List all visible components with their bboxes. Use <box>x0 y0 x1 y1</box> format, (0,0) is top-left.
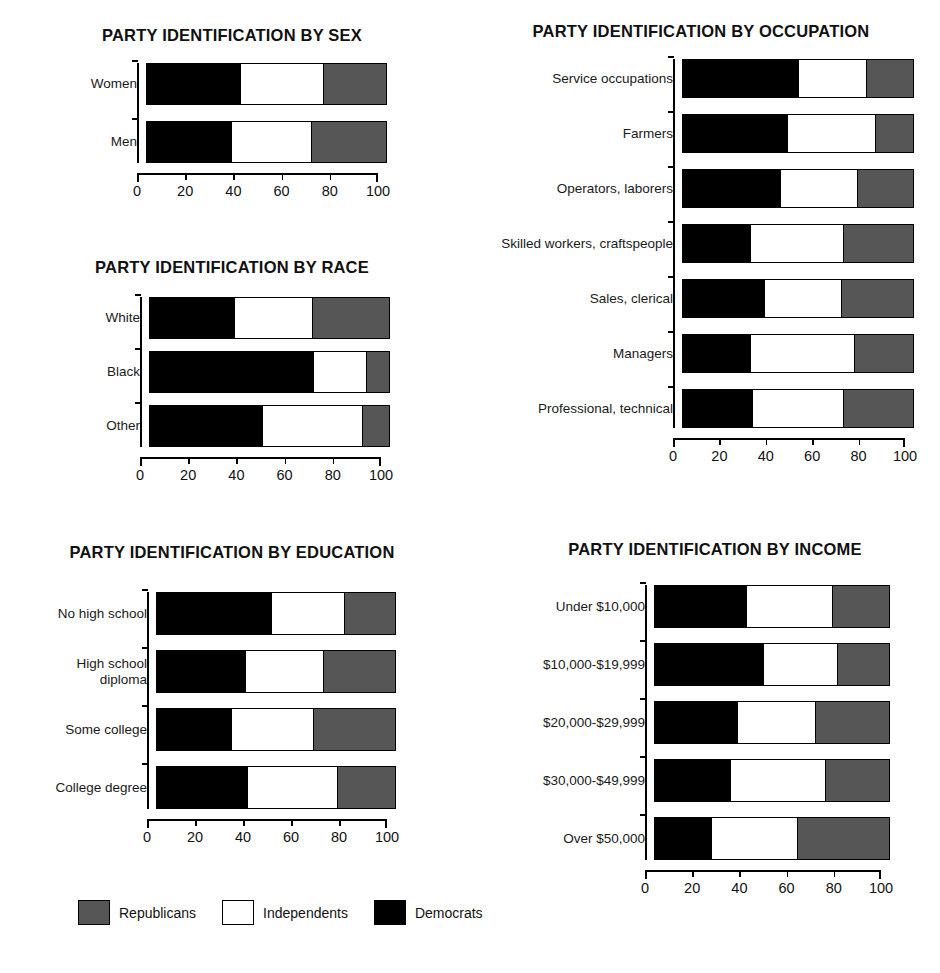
value-axis-tick <box>879 870 881 879</box>
panel-title: PARTY IDENTIFICATION BY EDUCATION <box>22 543 442 562</box>
value-axis-tick <box>285 457 287 464</box>
value-axis-tick <box>147 819 149 828</box>
value-axis-label: 0 <box>669 448 677 464</box>
value-axis-tick <box>692 870 694 877</box>
bar-rows: Service occupationsFarmersOperators, lab… <box>468 59 934 428</box>
panel-party-identification-by-race: PARTY IDENTIFICATION BY RACE WhiteBlackO… <box>22 258 442 487</box>
category-label: Over $50,000 <box>490 831 654 846</box>
value-axis-tick <box>834 870 836 877</box>
category-label: Farmers <box>468 126 682 141</box>
value-axis: 020406080100 <box>673 438 905 468</box>
stacked-bar <box>149 405 390 447</box>
bar-segment-democrats <box>683 280 764 317</box>
category-axis-tick <box>142 589 148 591</box>
value-axis-tick <box>188 457 190 464</box>
category-label: $30,000-$49,999 <box>490 773 654 788</box>
stacked-bar <box>682 169 914 208</box>
bar-segment-democrats <box>655 644 763 685</box>
bar-segment-independents <box>247 767 337 808</box>
bar-segment-democrats <box>683 225 750 262</box>
value-axis-line <box>645 870 881 872</box>
value-axis-tick <box>339 819 341 826</box>
value-axis-label: 20 <box>180 467 196 483</box>
value-axis-label: 0 <box>143 829 151 845</box>
value-axis-label: 100 <box>366 183 390 199</box>
bar-segment-republicans <box>324 64 386 104</box>
value-axis-tick <box>766 438 768 445</box>
bar-row: Skilled workers, craftspeople <box>468 224 934 263</box>
value-axis-label: 100 <box>893 448 917 464</box>
bar-row: Women <box>22 63 442 105</box>
value-axis-tick <box>282 173 284 180</box>
value-axis-tick <box>333 457 335 464</box>
bar-segment-republicans <box>345 593 395 634</box>
stacked-bar <box>146 121 387 163</box>
category-label: Professional, technical <box>468 401 682 416</box>
value-axis-tick <box>719 438 721 445</box>
value-axis-label: 80 <box>325 467 341 483</box>
stacked-bar <box>682 334 914 373</box>
bar-segment-democrats <box>683 60 798 97</box>
value-axis-tick <box>673 438 675 447</box>
value-axis-label: 80 <box>826 880 842 896</box>
value-axis-label: 100 <box>869 880 893 896</box>
value-axis-label: 80 <box>851 448 867 464</box>
value-axis-tick <box>376 173 378 182</box>
category-axis-tick <box>142 705 148 707</box>
bar-segment-independents <box>750 335 856 372</box>
value-axis-label: 40 <box>758 448 774 464</box>
legend-swatch-independents-icon <box>222 900 254 925</box>
bar-segment-independents <box>231 709 314 750</box>
plot-area: No high schoolHigh school diplomaSome co… <box>22 592 442 849</box>
bar-segment-independents <box>787 115 877 152</box>
value-axis-tick <box>291 819 293 826</box>
legend-item-independents: Independents <box>222 900 348 925</box>
bar-segment-democrats <box>150 298 234 338</box>
category-axis-line <box>140 297 142 447</box>
bar-row: No high school <box>22 592 442 635</box>
value-axis-label: 20 <box>177 183 193 199</box>
legend-label-republicans: Republicans <box>119 905 196 921</box>
bar-row: Professional, technical <box>468 389 934 428</box>
category-label: Other <box>22 418 149 433</box>
category-label: High school diploma <box>22 656 156 686</box>
bar-rows: WomenMen <box>22 63 442 163</box>
bar-segment-independents <box>234 298 313 338</box>
value-axis: 020406080100 <box>645 870 881 900</box>
category-label: Women <box>22 76 146 91</box>
bar-row: College degree <box>22 766 442 809</box>
bar-segment-republicans <box>842 280 913 317</box>
bar-segment-independents <box>231 122 312 162</box>
value-axis-tick <box>739 870 741 877</box>
bar-row: Operators, laborers <box>468 169 934 208</box>
value-axis-label: 20 <box>684 880 700 896</box>
value-axis-tick <box>330 173 332 180</box>
bar-row: $20,000-$29,999 <box>490 701 940 744</box>
plot-area: Service occupationsFarmersOperators, lab… <box>468 59 934 468</box>
bar-rows: Under $10,000$10,000-$19,999$20,000-$29,… <box>490 585 940 860</box>
bar-segment-independents <box>245 651 324 692</box>
category-axis-line <box>673 59 675 428</box>
value-axis-tick <box>385 819 387 828</box>
bar-segment-republicans <box>363 406 389 446</box>
value-axis-tick <box>195 819 197 826</box>
category-label: Black <box>22 364 149 379</box>
stacked-bar <box>682 224 914 263</box>
bar-row: Service occupations <box>468 59 934 98</box>
bar-segment-democrats <box>147 64 240 104</box>
category-axis-tick <box>668 386 674 388</box>
stacked-bar <box>146 63 387 105</box>
bar-segment-independents <box>780 170 858 207</box>
bar-segment-democrats <box>157 767 247 808</box>
stacked-bar <box>654 585 890 628</box>
stacked-bar <box>156 766 396 809</box>
category-axis-tick <box>135 294 141 296</box>
bar-segment-independents <box>798 60 867 97</box>
category-axis-tick <box>640 698 646 700</box>
value-axis-tick <box>859 438 861 445</box>
bar-row: Other <box>22 405 442 447</box>
plot-area: Under $10,000$10,000-$19,999$20,000-$29,… <box>490 585 940 900</box>
bar-row: White <box>22 297 442 339</box>
bar-segment-republicans <box>314 709 395 750</box>
bar-segment-independents <box>752 390 844 427</box>
